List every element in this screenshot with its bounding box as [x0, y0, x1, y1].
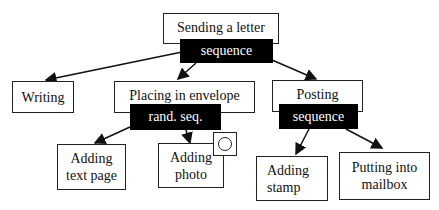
operator-label: rand. seq.: [148, 109, 202, 125]
node-writing: Writing: [12, 81, 74, 113]
node-label-line2: photo: [175, 166, 207, 183]
operator-label: sequence: [201, 43, 252, 59]
operator-label: sequence: [293, 109, 344, 125]
node-label: Placing in envelope: [129, 87, 239, 104]
node-adding-text-page: Adding text page: [57, 144, 126, 190]
node-label-line1: Adding: [71, 150, 113, 167]
node-adding-stamp: Adding stamp: [256, 156, 328, 201]
operator-sequence-posting: sequence: [279, 104, 358, 129]
node-putting-into-mailbox: Putting into mailbox: [339, 152, 430, 200]
node-label: Writing: [22, 89, 65, 106]
node-label-line1: Adding: [267, 162, 309, 179]
node-label-line2: text page: [66, 167, 117, 184]
node-label-line1: Putting into: [352, 159, 418, 176]
node-label-line2: mailbox: [362, 176, 408, 193]
circle-icon: [218, 137, 232, 151]
operator-sequence-root: sequence: [180, 39, 273, 63]
node-label-line1: Adding: [170, 149, 212, 166]
node-label: Posting: [296, 86, 338, 103]
node-label: Sending a letter: [177, 19, 265, 36]
node-label-line2: stamp: [267, 179, 300, 196]
operator-random-sequence: rand. seq.: [130, 104, 221, 130]
optional-marker: [213, 132, 237, 156]
